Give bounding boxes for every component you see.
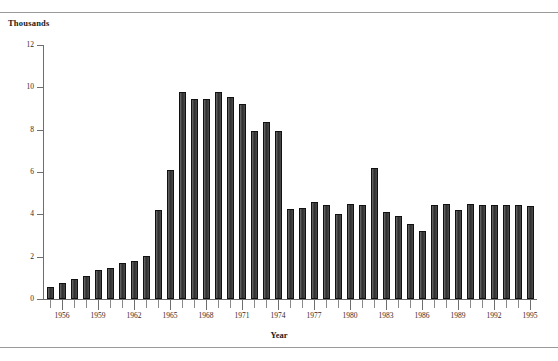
x-tick-mark xyxy=(278,300,279,310)
bar-series xyxy=(44,45,536,299)
plot-area xyxy=(44,45,536,299)
x-tick-mark xyxy=(206,300,207,310)
bar xyxy=(299,208,306,299)
x-tick-mark xyxy=(518,300,519,308)
x-tick-mark xyxy=(254,300,255,308)
x-tick-mark xyxy=(122,300,123,308)
bar xyxy=(455,210,462,299)
x-tick-mark xyxy=(98,300,99,310)
x-tick-mark xyxy=(314,300,315,310)
bar xyxy=(191,99,198,299)
x-tick-mark xyxy=(494,300,495,310)
x-tick-mark xyxy=(446,300,447,308)
bar xyxy=(251,131,258,299)
x-tick-mark xyxy=(266,300,267,308)
bar xyxy=(395,216,402,299)
x-tick-mark xyxy=(86,300,87,308)
bar xyxy=(431,205,438,299)
y-tick-mark xyxy=(37,172,44,173)
x-tick-mark xyxy=(230,300,231,308)
x-tick-mark xyxy=(386,300,387,310)
x-tick-mark xyxy=(530,300,531,310)
bar xyxy=(335,214,342,299)
bar xyxy=(347,204,354,299)
bar xyxy=(155,210,162,299)
bar xyxy=(287,209,294,299)
x-tick-mark xyxy=(110,300,111,308)
x-tick-mark xyxy=(242,300,243,310)
x-tick-label: 1995 xyxy=(523,311,538,320)
bar xyxy=(167,170,174,299)
bar xyxy=(239,104,246,299)
x-tick-mark xyxy=(194,300,195,308)
y-tick-mark xyxy=(37,257,44,258)
bar xyxy=(407,224,414,299)
bar xyxy=(371,168,378,299)
y-tick-label: 10 xyxy=(10,82,34,91)
x-tick-mark xyxy=(398,300,399,308)
bar xyxy=(263,122,270,299)
y-tick-label: 4 xyxy=(10,209,34,218)
x-tick-label: 1965 xyxy=(163,311,178,320)
bar xyxy=(467,204,474,299)
bar xyxy=(71,279,78,299)
x-tick-mark xyxy=(218,300,219,308)
bar xyxy=(203,99,210,299)
x-tick-mark xyxy=(134,300,135,310)
bar xyxy=(527,206,534,299)
y-tick-label: 2 xyxy=(10,252,34,261)
bar xyxy=(119,263,126,299)
y-tick-label: 6 xyxy=(10,167,34,176)
bottom-divider-rule xyxy=(0,347,558,348)
bar xyxy=(47,287,54,299)
bar xyxy=(419,231,426,299)
y-tick-mark xyxy=(37,214,44,215)
x-tick-mark xyxy=(434,300,435,308)
x-tick-mark xyxy=(290,300,291,308)
bar xyxy=(479,205,486,299)
x-tick-label: 1983 xyxy=(379,311,394,320)
top-divider-rule xyxy=(0,12,558,13)
bar xyxy=(503,205,510,299)
x-tick-mark xyxy=(146,300,147,308)
x-tick-mark xyxy=(62,300,63,310)
x-tick-label: 1971 xyxy=(235,311,250,320)
x-tick-mark xyxy=(506,300,507,308)
bar xyxy=(83,276,90,299)
bar xyxy=(383,212,390,299)
x-tick-mark xyxy=(482,300,483,308)
bar xyxy=(515,205,522,299)
x-tick-mark xyxy=(302,300,303,308)
bar xyxy=(131,261,138,299)
x-tick-mark xyxy=(74,300,75,308)
bar xyxy=(443,204,450,299)
x-tick-mark xyxy=(170,300,171,310)
x-tick-mark xyxy=(362,300,363,308)
bar xyxy=(107,268,114,299)
x-tick-mark xyxy=(458,300,459,310)
x-tick-label: 1980 xyxy=(343,311,358,320)
chart-figure: Thousands 024681012 19561959196219651968… xyxy=(0,0,558,361)
bar xyxy=(227,97,234,299)
y-tick-mark xyxy=(37,87,44,88)
x-tick-mark xyxy=(338,300,339,308)
bar xyxy=(275,131,282,299)
x-tick-label: 1974 xyxy=(271,311,286,320)
bar xyxy=(215,92,222,299)
bar xyxy=(323,205,330,299)
y-tick-label: 0 xyxy=(10,294,34,303)
bar xyxy=(179,92,186,299)
x-tick-mark xyxy=(50,300,51,308)
bar xyxy=(359,205,366,299)
x-tick-label: 1977 xyxy=(307,311,322,320)
bar xyxy=(59,283,66,299)
x-tick-label: 1986 xyxy=(415,311,430,320)
x-tick-mark xyxy=(410,300,411,308)
x-tick-mark xyxy=(182,300,183,308)
y-tick-mark xyxy=(37,45,44,46)
x-tick-mark xyxy=(470,300,471,308)
y-tick-label: 8 xyxy=(10,125,34,134)
y-axis-tick-labels: 024681012 xyxy=(6,0,34,361)
x-tick-mark xyxy=(158,300,159,308)
x-tick-label: 1989 xyxy=(451,311,466,320)
